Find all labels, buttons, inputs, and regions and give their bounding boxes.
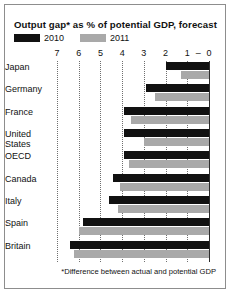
axis-tick-7: 7 [54,48,59,58]
category-label-canada: Canada [5,175,49,185]
axis-tick-0: 0 [206,48,211,58]
bar-france-2010 [124,107,209,115]
category-label-oecd: OECD [5,152,49,162]
bar-spain-2011 [79,227,209,235]
chart-row: Germany [57,84,209,104]
chart-row: Britain [57,241,209,261]
axis-tick-2: 2 [163,48,168,58]
bar-canada-2011 [120,183,209,191]
chart-frame: Output gap* as % of potential GDP, forec… [4,4,226,289]
legend-swatch-2011 [80,34,106,42]
category-label-italy: Italy [5,197,49,207]
category-label-france: France [5,108,49,118]
axis-tick-6: 6 [76,48,81,58]
bar-oecd-2010 [124,151,209,159]
chart-footnote: *Difference between actual and potential… [5,267,216,276]
legend-swatch-2010 [14,34,40,42]
chart-row: Japan [57,62,209,82]
category-label-britain: Britain [5,242,49,252]
bar-italy-2010 [109,196,209,204]
bar-germany-2011 [155,93,209,101]
bar-germany-2010 [146,84,209,92]
legend-label-2010: 2010 [44,33,64,43]
bar-france-2011 [131,116,209,124]
plot-area: 7654321–0JapanGermanyFranceUnitedStatesO… [57,61,209,262]
category-label-japan: Japan [5,63,49,73]
chart-row: France [57,107,209,127]
chart-row: UnitedStates [57,129,209,149]
bar-japan-2011 [181,71,209,79]
chart-row: Italy [57,196,209,216]
legend-label-2011: 2011 [110,33,129,43]
bar-oecd-2011 [129,160,209,168]
bar-britain-2011 [74,250,209,258]
bar-canada-2010 [113,174,209,182]
axis-tick-4: 4 [120,48,125,58]
chart-row: Spain [57,218,209,238]
category-label-germany: Germany [5,85,49,95]
bar-japan-2010 [166,62,209,70]
axis-tick-dash: – [196,48,201,58]
gridline-0 [209,61,210,262]
category-label-spain: Spain [5,219,49,229]
axis-tick-5: 5 [98,48,103,58]
chart-row: OECD [57,151,209,171]
chart-row: Canada [57,174,209,194]
bar-spain-2010 [83,218,209,226]
chart-title: Output gap* as % of potential GDP, forec… [14,19,217,30]
bar-united-states-2010 [124,129,209,137]
axis-tick-3: 3 [141,48,146,58]
bar-britain-2010 [70,241,209,249]
bar-italy-2011 [118,205,209,213]
category-label-united-states: UnitedStates [5,130,49,149]
bar-united-states-2011 [144,138,209,146]
axis-tick-1: 1 [185,48,190,58]
